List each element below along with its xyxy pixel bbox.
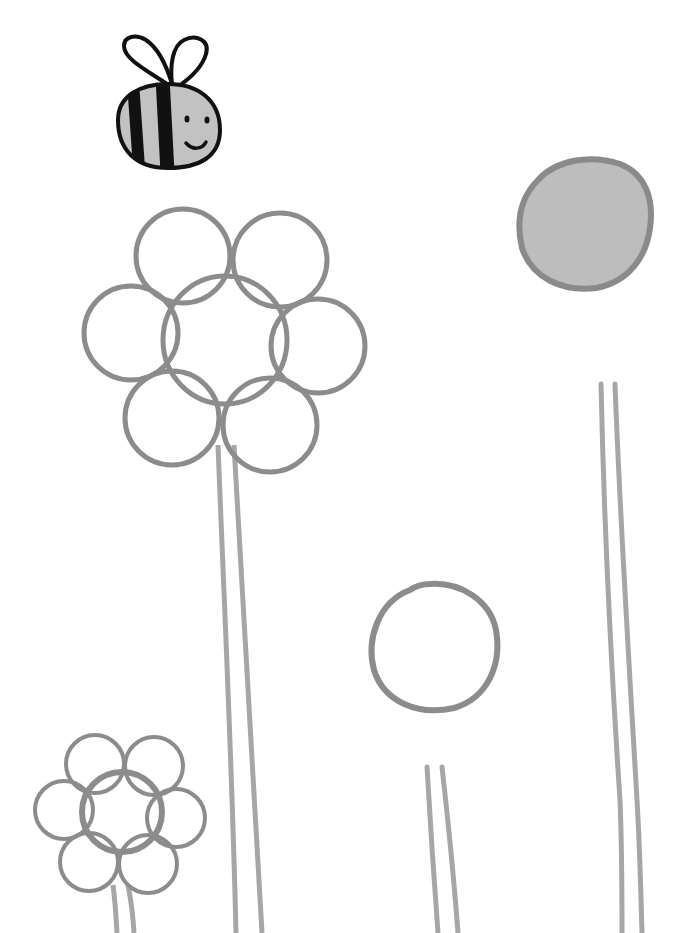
large-flower-center [163, 276, 287, 404]
empty-flower-head [372, 584, 498, 710]
bee-eye-right [205, 117, 210, 124]
small-flower-stem-left [113, 885, 117, 933]
bee-right-wing [171, 38, 206, 88]
large-flower-petal [125, 371, 219, 465]
empty-flower-stem-right [442, 767, 458, 933]
empty-flower-stem-left [427, 767, 438, 933]
large-flower-petal [233, 213, 327, 307]
small-petal-flower [35, 735, 205, 933]
large-flower-stem-left [218, 445, 236, 933]
large-flower-petal [223, 378, 317, 472]
small-flower-petal [60, 833, 118, 891]
bee-left-wing [124, 37, 172, 86]
empty-round-flower [372, 584, 498, 933]
bee-icon [118, 37, 220, 176]
illustration-canvas [0, 0, 700, 933]
coloring-page [0, 0, 700, 933]
filled-round-flower [519, 159, 651, 933]
small-flower-stem-right [128, 885, 134, 933]
large-petal-flower [84, 209, 365, 933]
filled-flower-head [519, 159, 651, 288]
large-flower-stem-right [234, 445, 262, 933]
bee-eye-left [185, 116, 190, 123]
